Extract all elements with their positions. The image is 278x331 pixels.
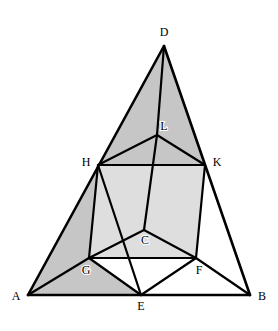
geometry-canvas: DLHKCGFAEB: [0, 0, 278, 331]
vertex-label-e: E: [137, 299, 144, 313]
vertex-label-d: D: [160, 25, 169, 39]
vertex-label-b: B: [258, 289, 266, 303]
vertex-label-l: L: [160, 119, 167, 133]
vertex-label-h: H: [82, 155, 91, 169]
triangle-DHK: [98, 46, 205, 165]
vertex-label-k: K: [213, 155, 222, 169]
vertex-label-f: F: [196, 263, 203, 277]
vertex-label-a: A: [12, 289, 21, 303]
vertex-label-g: G: [82, 263, 91, 277]
vertex-label-c: C: [141, 233, 149, 247]
geometry-figure: DLHKCGFAEB: [0, 0, 278, 331]
